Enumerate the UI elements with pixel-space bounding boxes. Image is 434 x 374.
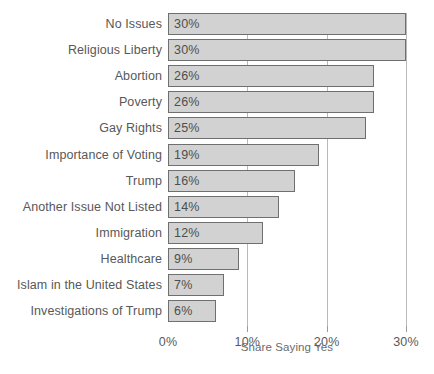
category-label: Islam in the United States (0, 274, 162, 296)
category-label: Investigations of Trump (0, 300, 162, 322)
category-label: Trump (0, 170, 162, 192)
bar: 30% (168, 39, 406, 61)
tick-10pct (247, 326, 248, 332)
bar: 14% (168, 196, 279, 218)
bar-value-label: 16% (174, 171, 200, 193)
category-label: No Issues (0, 13, 162, 35)
bar-value-label: 12% (174, 223, 200, 245)
bar-value-label: 6% (174, 301, 192, 323)
category-label: Importance of Voting (0, 144, 162, 166)
category-label: Poverty (0, 91, 162, 113)
bar: 19% (168, 144, 319, 166)
plot-area: 30%30%26%26%25%19%16%14%12%9%7%6% 0%10%2… (168, 13, 406, 326)
bar: 12% (168, 222, 263, 244)
bar: 25% (168, 117, 366, 139)
bar-value-label: 26% (174, 66, 200, 88)
bar: 6% (168, 300, 216, 322)
bar: 16% (168, 170, 295, 192)
category-label: Healthcare (0, 248, 162, 270)
bar: 7% (168, 274, 224, 296)
bar-value-label: 26% (174, 92, 200, 114)
bar-value-label: 30% (174, 40, 200, 62)
category-label: Immigration (0, 222, 162, 244)
bar-value-label: 14% (174, 197, 200, 219)
category-label: Gay Rights (0, 117, 162, 139)
bar-value-label: 9% (174, 249, 192, 271)
category-axis: No IssuesReligious LibertyAbortionPovert… (0, 13, 162, 326)
bar: 30% (168, 13, 406, 35)
tick-30pct (406, 326, 407, 332)
category-label: Religious Liberty (0, 39, 162, 61)
bar-value-label: 30% (174, 14, 200, 36)
gridline-30pct (406, 13, 407, 326)
bar: 9% (168, 248, 239, 270)
tick-20pct (327, 326, 328, 332)
category-label: Another Issue Not Listed (0, 196, 162, 218)
bar-chart: No IssuesReligious LibertyAbortionPovert… (0, 0, 434, 374)
bar-value-label: 7% (174, 275, 192, 297)
x-axis-title: Share Saying Yes (168, 341, 406, 353)
bar: 26% (168, 65, 374, 87)
bar: 26% (168, 91, 374, 113)
bar-value-label: 25% (174, 118, 200, 140)
bar-value-label: 19% (174, 145, 200, 167)
category-label: Abortion (0, 65, 162, 87)
